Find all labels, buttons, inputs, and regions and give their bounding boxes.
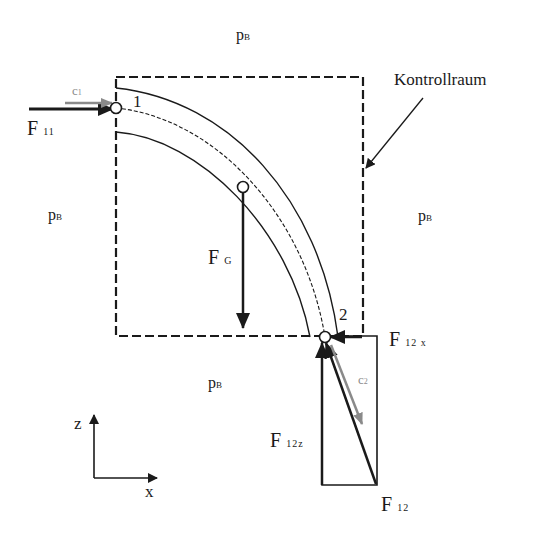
point-1-marker [111,103,122,114]
force-fg-label: F G [208,247,232,267]
pressure-label-top: pB [236,27,250,43]
point-2-marker [320,332,331,343]
center-of-mass-marker [238,182,249,193]
control-volume-pointer [366,98,423,168]
pressure-label-right: pB [418,208,432,224]
velocity-c2-label: c2 [358,373,369,386]
pipe-inner-wall [116,132,310,337]
force-f12-label: F 12 [381,494,409,514]
pressure-label-left: pB [48,207,62,223]
pipe-outer-wall [116,88,338,337]
point-1-label: 1 [133,93,142,110]
coordinate-axes [94,415,157,478]
x-axis-label: x [145,483,154,500]
pipe-bend [116,88,338,337]
force-f12z-label: F 12z [270,430,304,450]
z-axis-label: z [74,415,82,432]
force-f12-arrow [326,343,376,484]
control-volume-label: Kontrollraum [394,71,487,88]
force-f11-label: F 11 [27,118,55,138]
velocity-c1-label: c1 [72,84,83,97]
point-2-label: 2 [339,306,348,323]
pressure-label-bottom: pB [208,375,222,391]
force-f12x-label: F 12 x [389,329,427,349]
pipe-centerline [116,108,325,337]
